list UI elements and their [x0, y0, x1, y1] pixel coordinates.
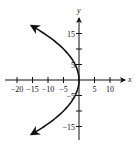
x-tick-label: 10: [106, 85, 114, 94]
curve-arrow-icons: [32, 26, 35, 28]
parabola-chart: −20−15−10−5510 155−5−15 x y: [0, 0, 140, 144]
x-tick-label: −20: [11, 85, 24, 94]
y-tick-label: 15: [67, 30, 75, 39]
x-axis-label: x: [127, 75, 132, 84]
x-tick-label: −15: [26, 85, 39, 94]
y-axis-label: y: [76, 6, 81, 15]
y-tick-label: −15: [62, 123, 75, 132]
curve-start-arrow-icon: [32, 26, 35, 28]
x-tick-label: −10: [42, 85, 55, 94]
x-tick-label: 5: [93, 85, 97, 94]
